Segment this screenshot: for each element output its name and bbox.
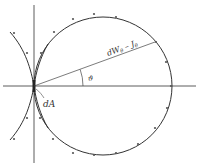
- right-upper-curve: [34, 44, 48, 86]
- measurement-dot: [72, 18, 74, 20]
- left-upper-curve: [10, 32, 34, 86]
- measurement-dot: [155, 41, 157, 43]
- polar-diagram: dWθ – Jθ ϑ dA: [0, 0, 202, 166]
- measurement-dot: [166, 107, 168, 109]
- dA-leader-line: [36, 89, 44, 98]
- measurement-dot: [26, 52, 28, 54]
- measurement-dot: [13, 32, 15, 34]
- radius-line: [34, 42, 155, 86]
- measurement-dot: [137, 143, 139, 145]
- measurement-dot: [154, 127, 156, 129]
- angle-arc: [80, 70, 83, 87]
- measurement-dot: [115, 152, 117, 154]
- angle-label: ϑ: [88, 75, 93, 83]
- diagram-canvas: dWθ – Jθ ϑ dA: [0, 0, 202, 166]
- measurement-dot: [53, 31, 55, 33]
- measurement-dot: [26, 117, 28, 119]
- measurement-dot: [13, 138, 15, 140]
- measurement-dot: [93, 154, 95, 156]
- radius-label-sub2: θ: [134, 42, 139, 49]
- measurement-dot: [72, 152, 74, 154]
- radius-label: dWθ – Jθ: [106, 39, 139, 59]
- measurement-dot: [93, 13, 95, 15]
- measurement-dot: [170, 85, 172, 87]
- measurement-dot: [165, 61, 167, 63]
- measurement-dot: [40, 52, 42, 54]
- left-lower-curve: [10, 86, 34, 140]
- measurement-dot: [52, 138, 54, 140]
- measurement-dot: [39, 117, 41, 119]
- element-label: dA: [43, 99, 56, 109]
- measurement-dot: [115, 16, 117, 18]
